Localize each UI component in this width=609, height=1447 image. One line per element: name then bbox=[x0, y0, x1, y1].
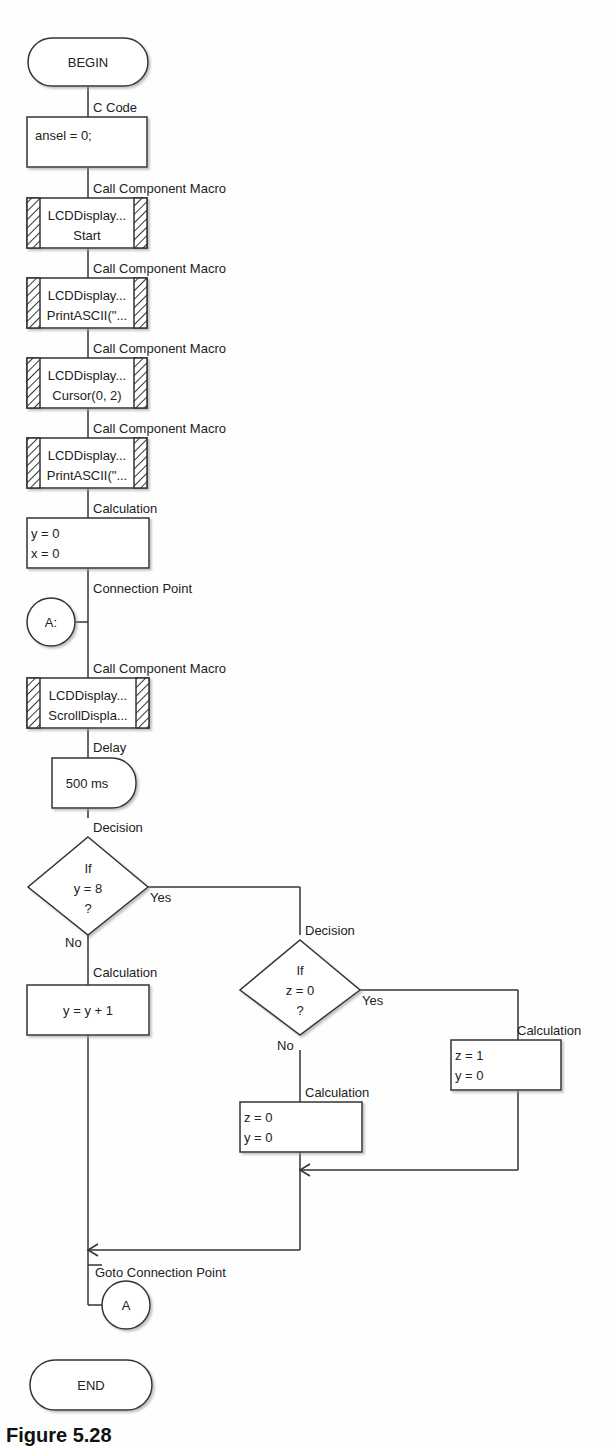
node-text: Yes bbox=[150, 890, 172, 905]
node-text: Yes bbox=[362, 993, 384, 1008]
node-text: z = 0 bbox=[286, 983, 315, 998]
node-text: ? bbox=[296, 1003, 303, 1018]
node-text: Delay bbox=[93, 740, 127, 755]
node-text: Call Component Macro bbox=[93, 181, 226, 196]
node-text: No bbox=[277, 1038, 294, 1053]
node-text: x = 0 bbox=[31, 546, 60, 561]
figure-caption: Figure 5.28 bbox=[6, 1424, 112, 1447]
node-text: y = 0 bbox=[244, 1130, 273, 1145]
node-text: Calculation bbox=[93, 965, 157, 980]
node-text: A: bbox=[45, 615, 57, 630]
end-label: END bbox=[77, 1378, 104, 1393]
node-text: A bbox=[122, 1298, 131, 1313]
node-text: LCDDisplay... bbox=[48, 288, 127, 303]
node-text: Goto Connection Point bbox=[95, 1265, 226, 1280]
node-text: Calculation bbox=[517, 1023, 581, 1038]
node-text: ansel = 0; bbox=[35, 128, 92, 143]
node-text: Calculation bbox=[305, 1085, 369, 1100]
node-text: Decision bbox=[93, 820, 143, 835]
node-text: y = 0 bbox=[455, 1068, 484, 1083]
node-text: Call Component Macro bbox=[93, 341, 226, 356]
node-text: LCDDisplay... bbox=[48, 448, 127, 463]
node-text: Calculation bbox=[93, 501, 157, 516]
node-text: PrintASCII("... bbox=[47, 308, 127, 323]
node-text: If bbox=[84, 861, 92, 876]
node-text: Cursor(0, 2) bbox=[52, 388, 121, 403]
node-text: y = y + 1 bbox=[63, 1003, 113, 1018]
node-text: ? bbox=[84, 901, 91, 916]
node-text: z = 0 bbox=[244, 1110, 273, 1125]
node-text: 500 ms bbox=[66, 776, 109, 791]
node-text: C Code bbox=[93, 100, 137, 115]
node-text: Decision bbox=[305, 923, 355, 938]
node-text: ScrollDispla... bbox=[48, 708, 127, 723]
node-text: No bbox=[65, 935, 82, 950]
node-text: Call Component Macro bbox=[93, 661, 226, 676]
node-text: If bbox=[296, 963, 304, 978]
node-text: Connection Point bbox=[93, 581, 192, 596]
node-text: y = 8 bbox=[74, 881, 103, 896]
node-text: PrintASCII("... bbox=[47, 468, 127, 483]
node-text: Call Component Macro bbox=[93, 421, 226, 436]
node-text: z = 1 bbox=[455, 1048, 484, 1063]
begin-label: BEGIN bbox=[68, 55, 108, 70]
node-text: Call Component Macro bbox=[93, 261, 226, 276]
node-text: LCDDisplay... bbox=[48, 368, 127, 383]
node-text: LCDDisplay... bbox=[49, 688, 128, 703]
node-text: LCDDisplay... bbox=[48, 208, 127, 223]
node-text: y = 0 bbox=[31, 526, 60, 541]
node-text: Start bbox=[73, 228, 101, 243]
